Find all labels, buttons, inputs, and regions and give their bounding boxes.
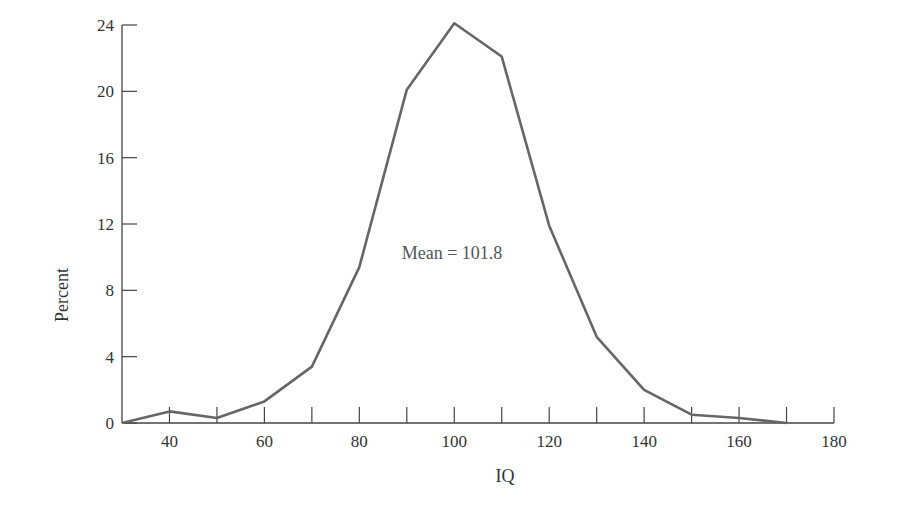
- y-tick-label: 12: [97, 215, 114, 234]
- y-tick-label: 20: [97, 82, 114, 101]
- line-chart: 04812162024406080100120140160180 Percent…: [0, 0, 900, 518]
- x-tick-label: 40: [161, 432, 178, 451]
- y-tick-label: 16: [97, 149, 114, 168]
- series-layer: [122, 23, 787, 423]
- mean-annotation: Mean = 101.8: [402, 243, 503, 263]
- x-tick-label: 160: [726, 432, 752, 451]
- x-axis-title: IQ: [496, 466, 515, 486]
- y-tick-label: 24: [97, 16, 115, 35]
- x-tick-label: 140: [631, 432, 657, 451]
- x-tick-label: 180: [821, 432, 847, 451]
- data-line: [122, 23, 787, 423]
- axes: 04812162024406080100120140160180: [97, 16, 847, 451]
- x-tick-label: 120: [536, 432, 562, 451]
- x-tick-label: 80: [351, 432, 368, 451]
- x-tick-label: 60: [256, 432, 273, 451]
- y-tick-label: 0: [106, 414, 115, 433]
- y-tick-label: 4: [106, 348, 115, 367]
- y-tick-label: 8: [106, 281, 115, 300]
- x-tick-label: 100: [442, 432, 468, 451]
- y-axis-title: Percent: [52, 268, 72, 322]
